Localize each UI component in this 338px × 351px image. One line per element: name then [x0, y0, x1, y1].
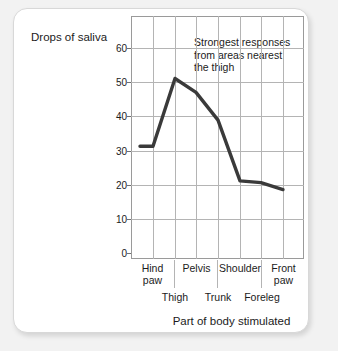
x-label-hind-paw-line2: paw	[131, 274, 174, 286]
x-label-separator-3	[261, 260, 262, 288]
y-tick-label-60: 60	[105, 44, 127, 54]
plot-area	[131, 16, 304, 259]
y-tick-label-10: 10	[105, 215, 127, 225]
x-label-pelvis-line1: Pelvis	[175, 262, 218, 274]
y-tick-label-20: 20	[105, 181, 127, 191]
saliva-response-polyline	[140, 78, 283, 189]
data-line-series	[131, 16, 304, 259]
x-label-front-paw-line2: paw	[262, 274, 305, 286]
x-label-front-paw: Front paw	[262, 262, 305, 286]
x-label-hind-paw-line1: Hind	[131, 262, 174, 274]
y-tick-label-50: 50	[105, 78, 127, 88]
y-tick-label-40: 40	[105, 112, 127, 122]
x-label-shoulder-line1: Shoulder	[218, 262, 262, 274]
y-axis-title: Drops of saliva	[31, 31, 107, 43]
x-label-shoulder: Shoulder	[218, 262, 262, 274]
y-tick-label-30: 30	[105, 147, 127, 157]
y-tick-label-0: 0	[105, 249, 127, 259]
x-label-separator-2	[217, 260, 218, 288]
x-label-pelvis: Pelvis	[175, 262, 218, 274]
x-label-separator-1	[174, 260, 175, 288]
x-label-thigh: Thigh	[153, 291, 197, 303]
x-axis-title: Part of body stimulated	[145, 315, 318, 327]
x-label-foreleg: Foreleg	[240, 291, 284, 303]
x-label-trunk: Trunk	[196, 291, 240, 303]
x-label-front-paw-line1: Front	[262, 262, 305, 274]
x-label-hind-paw: Hind paw	[131, 262, 174, 286]
